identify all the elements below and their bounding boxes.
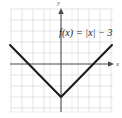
function-equation-label: f(x) = |x| − 3 <box>59 27 113 38</box>
function-equation-text: f(x) = |x| − 3 <box>59 27 113 38</box>
graph-screenshot: f(x) = |x| − 3 y x <box>0 0 122 118</box>
coordinate-plane-figure <box>0 0 122 118</box>
x-axis-label: x <box>116 60 119 68</box>
y-axis-label: y <box>57 0 60 7</box>
